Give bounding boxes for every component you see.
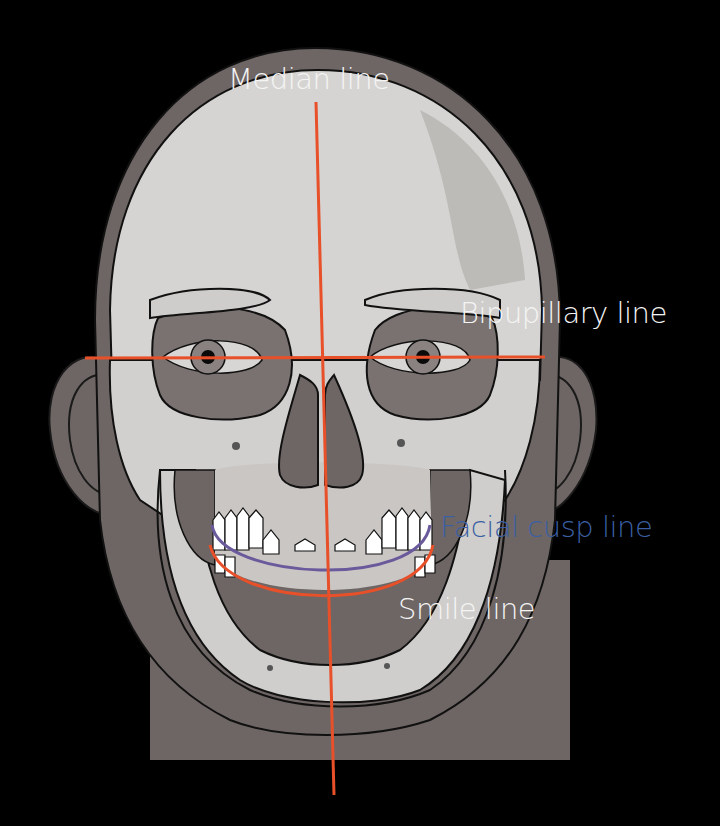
facial-reference-lines-diagram: Median line Bipupillary line Facial cusp… bbox=[0, 0, 720, 826]
left-mental-foramen bbox=[267, 665, 273, 671]
facial-cusp-line-label: Facial cusp line bbox=[440, 510, 652, 544]
bipupillary-line-label: Bipupillary line bbox=[460, 296, 667, 330]
head-illustration bbox=[0, 0, 720, 826]
left-foramen bbox=[232, 442, 240, 450]
median-line-label: Median line bbox=[228, 62, 390, 96]
right-foramen bbox=[397, 439, 405, 447]
right-mental-foramen bbox=[384, 663, 390, 669]
smile-line-label: Smile line bbox=[398, 592, 535, 626]
bipupillary-line bbox=[85, 357, 545, 358]
